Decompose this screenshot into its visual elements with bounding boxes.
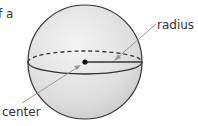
center-label: center (2, 106, 41, 118)
center-point (82, 59, 87, 64)
radius-label: radius (157, 19, 194, 31)
